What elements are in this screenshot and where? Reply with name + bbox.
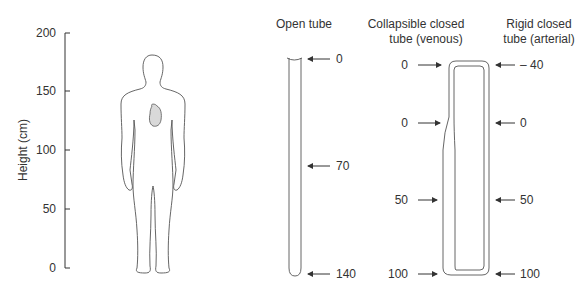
rigid-tube-subtitle: tube (arterial): [503, 32, 574, 46]
closed-tube: Collapsible closed tube (venous) Rigid c…: [368, 17, 575, 281]
axis-tick-label: 200: [36, 26, 56, 40]
axis-tick-label: 100: [36, 143, 56, 157]
open-tube: Open tube 0 70 140: [276, 17, 356, 281]
collapsible-tube-subtitle: tube (venous): [389, 32, 462, 46]
axis-tick-label: 0: [49, 261, 56, 275]
pressure-label: 0: [520, 116, 527, 130]
human-body-icon: [121, 55, 185, 273]
axis-tick-label: 150: [36, 84, 56, 98]
pressure-label: – 40: [520, 58, 544, 72]
pressure-label: 50: [395, 193, 409, 207]
pressure-label: 100: [388, 267, 408, 281]
pressure-label: 140: [336, 267, 356, 281]
collapsible-tube-title: Collapsible closed: [368, 17, 465, 31]
rigid-tube-title: Rigid closed: [506, 17, 571, 31]
axis-tick-label: 50: [43, 202, 57, 216]
pressure-label: 0: [336, 52, 343, 66]
pressure-label: 50: [520, 193, 534, 207]
heart-icon: [149, 104, 161, 126]
height-axis: 200 150 100 50 0 Height (cm): [16, 26, 70, 275]
pressure-label: 70: [336, 159, 350, 173]
open-tube-title: Open tube: [276, 17, 332, 31]
pressure-label: 100: [520, 267, 540, 281]
axis-title: Height (cm): [16, 119, 30, 181]
pressure-label: 0: [401, 58, 408, 72]
pressure-diagram: 200 150 100 50 0 Height (cm) Open tube 0…: [0, 0, 581, 290]
pressure-label: 0: [401, 116, 408, 130]
